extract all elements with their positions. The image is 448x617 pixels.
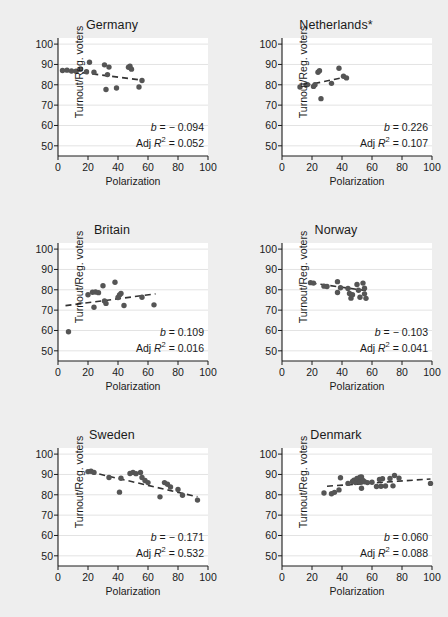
panel-netherlands-: Netherlands*5060708090100020406080100Tur… xyxy=(224,2,448,207)
y-tick-label: 80 xyxy=(41,284,53,296)
x-tick-label: 60 xyxy=(142,161,154,173)
y-tick-label: 50 xyxy=(41,140,53,152)
y-tick-label: 90 xyxy=(41,58,53,70)
figure-scatter-grid: Germany5060708090100020406080100Turnout/… xyxy=(0,0,448,617)
slope-label: b = − 0.171 xyxy=(136,531,204,545)
slope-label: b = 0.060 xyxy=(360,531,428,545)
data-point xyxy=(112,280,117,285)
panel-britain: Britain5060708090100020406080100Turnout/… xyxy=(0,207,224,412)
x-tick-label: 0 xyxy=(279,366,285,378)
data-point xyxy=(157,494,162,499)
data-point xyxy=(91,305,96,310)
data-point xyxy=(324,284,329,289)
y-tick-label: 90 xyxy=(41,263,53,275)
data-point xyxy=(359,486,364,491)
data-point xyxy=(106,475,111,480)
y-axis-label: Turnout/Reg. voters xyxy=(297,417,309,547)
data-point xyxy=(345,286,350,291)
y-tick-label: 50 xyxy=(41,550,53,562)
data-point xyxy=(387,476,392,481)
data-point xyxy=(175,487,180,492)
data-point xyxy=(139,78,144,83)
y-tick-label: 70 xyxy=(41,99,53,111)
data-point xyxy=(390,483,395,488)
y-tick-label: 70 xyxy=(41,509,53,521)
data-point xyxy=(380,476,385,481)
data-point xyxy=(118,291,123,296)
data-point xyxy=(129,66,134,71)
data-point xyxy=(362,285,367,290)
data-point xyxy=(96,290,101,295)
x-tick-label: 60 xyxy=(142,366,154,378)
data-point xyxy=(363,296,368,301)
data-point xyxy=(396,475,401,480)
slope-label: b = 0.226 xyxy=(360,121,428,135)
data-point xyxy=(329,81,334,86)
y-axis-label: Turnout/Reg. voters xyxy=(297,7,309,137)
data-point xyxy=(318,96,323,101)
data-point xyxy=(118,476,123,481)
data-point xyxy=(344,75,349,80)
y-tick-label: 60 xyxy=(265,119,277,131)
x-tick-label: 100 xyxy=(199,366,217,378)
y-tick-label: 100 xyxy=(259,38,277,50)
data-point xyxy=(321,490,326,495)
adj-r2-label: Adj R2 = 0.052 xyxy=(136,135,204,150)
data-point xyxy=(105,72,110,77)
slope-label: b = − 0.094 xyxy=(136,121,204,135)
data-point xyxy=(91,470,96,475)
stats-annotation: b = − 0.103Adj R2 = 0.041 xyxy=(360,326,428,355)
x-tick-label: 100 xyxy=(423,571,441,583)
data-point xyxy=(139,295,144,300)
x-tick-label: 40 xyxy=(336,571,348,583)
data-point xyxy=(151,302,156,307)
data-point xyxy=(106,64,111,69)
adj-r2-label: Adj R2 = 0.088 xyxy=(360,545,428,560)
stats-annotation: b = 0.060Adj R2 = 0.088 xyxy=(360,531,428,560)
x-tick-label: 80 xyxy=(396,366,408,378)
panel-title: Sweden xyxy=(0,428,224,442)
data-point xyxy=(312,82,317,87)
data-point xyxy=(336,66,341,71)
data-point xyxy=(335,290,340,295)
y-tick-label: 60 xyxy=(265,324,277,336)
data-point xyxy=(392,473,397,478)
data-point xyxy=(91,69,96,74)
y-tick-label: 100 xyxy=(259,243,277,255)
x-tick-label: 20 xyxy=(82,161,94,173)
data-point xyxy=(117,489,122,494)
x-axis-label: Polarization xyxy=(58,585,208,597)
y-tick-label: 60 xyxy=(265,529,277,541)
y-tick-label: 60 xyxy=(41,529,53,541)
x-tick-label: 100 xyxy=(199,571,217,583)
x-tick-label: 100 xyxy=(199,161,217,173)
x-tick-label: 40 xyxy=(336,161,348,173)
data-point xyxy=(168,484,173,489)
data-point xyxy=(64,67,69,72)
x-tick-label: 60 xyxy=(366,571,378,583)
y-axis-label: Turnout/Reg. voters xyxy=(73,417,85,547)
panel-denmark: Denmark5060708090100020406080100Turnout/… xyxy=(224,412,448,617)
stats-annotation: b = 0.226Adj R2 = 0.107 xyxy=(360,121,428,150)
plot-area: 5060708090100020406080100Turnout/Reg. vo… xyxy=(58,448,208,566)
x-axis-label: Polarization xyxy=(282,380,432,392)
stats-annotation: b = − 0.094Adj R2 = 0.052 xyxy=(136,121,204,150)
y-tick-label: 90 xyxy=(265,58,277,70)
adj-r2-label: Adj R2 = 0.532 xyxy=(136,545,204,560)
x-tick-label: 60 xyxy=(366,366,378,378)
panel-title: Denmark xyxy=(224,428,448,442)
plot-area: 5060708090100020406080100Turnout/Reg. vo… xyxy=(282,243,432,361)
x-tick-label: 80 xyxy=(172,366,184,378)
y-tick-label: 70 xyxy=(265,509,277,521)
data-point xyxy=(103,87,108,92)
data-point xyxy=(121,303,126,308)
data-point xyxy=(103,301,108,306)
panel-title: Netherlands* xyxy=(224,18,448,32)
y-tick-label: 80 xyxy=(265,79,277,91)
slope-label: b = 0.109 xyxy=(136,326,204,340)
data-point xyxy=(357,295,362,300)
stats-annotation: b = − 0.171Adj R2 = 0.532 xyxy=(136,531,204,560)
adj-r2-label: Adj R2 = 0.107 xyxy=(360,135,428,150)
y-tick-label: 100 xyxy=(259,448,277,460)
panel-sweden: Sweden5060708090100020406080100Turnout/R… xyxy=(0,412,224,617)
